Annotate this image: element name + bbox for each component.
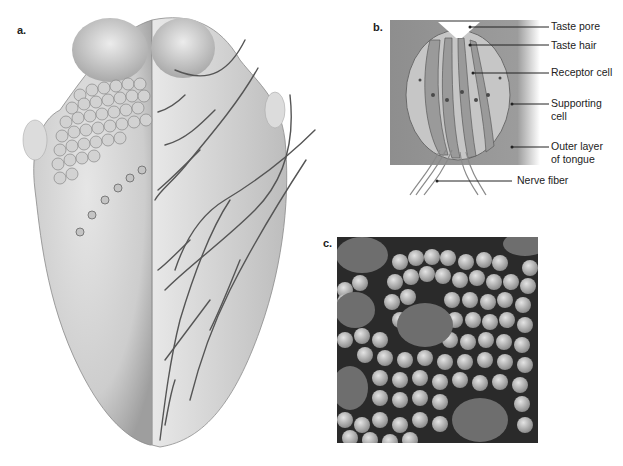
fungiform-papilla <box>503 232 547 256</box>
fungiform-papilla <box>332 366 368 410</box>
fungiform-papilla <box>397 303 453 347</box>
fungiform-papilla <box>335 292 375 328</box>
fungiform-papilla <box>336 237 388 273</box>
fungiform-papilla <box>452 398 508 442</box>
papillae-micrograph <box>0 0 623 466</box>
